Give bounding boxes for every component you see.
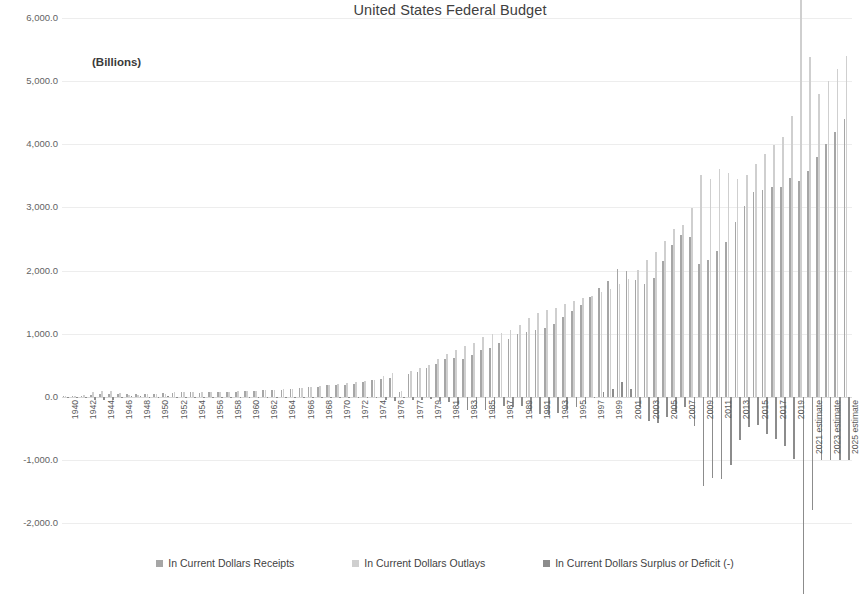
bar-outlays	[619, 284, 621, 397]
bar-surplus-deficit	[403, 397, 405, 398]
x-axis-tick-label: 1968	[324, 400, 334, 419]
bar-outlays	[655, 252, 657, 397]
x-axis-tick-label: 1999	[614, 400, 624, 419]
bar-outlays	[292, 389, 294, 396]
legend-item[interactable]: In Current Dollars Receipts	[156, 557, 294, 569]
x-axis-tick-label: 2021 estimate	[814, 400, 824, 454]
x-axis-tick-label: 2023 estimate	[832, 400, 842, 454]
x-axis-tick-label: 1970	[342, 400, 352, 419]
bar-outlays	[710, 179, 712, 397]
y-axis-tick-label: 1,000.0	[0, 328, 58, 339]
bar-outlays	[419, 368, 421, 397]
bar-outlays	[492, 334, 494, 397]
x-axis-tick-label: 1962	[269, 400, 279, 419]
bar-outlays	[310, 387, 312, 397]
bar-surplus-deficit	[185, 397, 187, 398]
bar-outlays	[764, 154, 766, 397]
bar-outlays	[446, 354, 448, 397]
bar-outlays	[837, 69, 839, 397]
bar-outlays	[664, 241, 666, 397]
bar-surplus-deficit	[603, 392, 605, 396]
x-axis-tick-label: 1987	[505, 400, 515, 419]
bar-outlays	[328, 385, 330, 397]
bar-surplus-deficit	[330, 397, 332, 398]
bar-outlays	[383, 376, 385, 397]
bar-outlays	[791, 116, 793, 397]
x-axis-tick-label: 2005	[669, 400, 679, 419]
bar-surplus-deficit	[367, 397, 369, 398]
y-axis-tick-label: 3,000.0	[0, 201, 58, 212]
y-axis-tick-label: -1,000.0	[0, 454, 58, 465]
x-axis-tick-label: 1952	[179, 400, 189, 419]
bar-surplus-deficit	[630, 389, 632, 397]
bar-outlays	[818, 94, 820, 397]
x-axis-tick-label: 1993	[560, 400, 570, 419]
bar-outlays	[800, 0, 802, 397]
bar-surplus-deficit	[76, 397, 78, 398]
bar-surplus-deficit	[249, 397, 251, 398]
legend-item[interactable]: In Current Dollars Outlays	[352, 557, 485, 569]
y-axis-tick-label: 4,000.0	[0, 138, 58, 149]
bar-outlays	[428, 365, 430, 397]
x-axis-tick-label: 1995	[578, 400, 588, 419]
x-axis-tick-label: 1966	[306, 400, 316, 419]
chart-title: United States Federal Budget	[0, 2, 860, 18]
bar-surplus-deficit	[158, 397, 160, 398]
bar-surplus-deficit	[176, 397, 178, 398]
bar-outlays	[700, 175, 702, 397]
bar-surplus-deficit	[258, 397, 260, 398]
x-axis-tick-label: 1974	[378, 400, 388, 419]
bar-outlays	[528, 318, 530, 397]
bar-surplus-deficit	[348, 397, 350, 398]
bar-outlays	[728, 173, 730, 396]
x-axis-tick-label: 2007	[687, 400, 697, 419]
legend-label: In Current Dollars Receipts	[168, 557, 294, 569]
bar-outlays	[437, 359, 439, 396]
x-axis-tick-label: 1977	[415, 400, 425, 419]
bar-outlays	[346, 383, 348, 396]
bar-outlays	[628, 279, 630, 397]
bar-outlays	[755, 164, 757, 397]
x-axis-tick-label: 1956	[215, 400, 225, 419]
bar-surplus-deficit	[312, 397, 314, 398]
y-axis-tick-label: 6,000.0	[0, 12, 58, 23]
bar-outlays	[782, 137, 784, 396]
x-axis-tick-label: 1976	[396, 400, 406, 419]
bar-outlays	[601, 292, 603, 396]
bar-outlays	[637, 270, 639, 397]
y-axis-tick-label: 5,000.0	[0, 75, 58, 86]
bar-outlays	[355, 382, 357, 397]
bar-surplus-deficit	[212, 397, 214, 398]
x-axis-tick-label: 1985	[487, 400, 497, 419]
x-axis-tick-label: 1997	[596, 400, 606, 419]
bar-outlays	[564, 304, 566, 396]
bar-outlays	[301, 388, 303, 396]
bar-outlays	[501, 333, 503, 396]
legend-item[interactable]: In Current Dollars Surplus or Deficit (-…	[543, 557, 734, 569]
x-axis-tick-label: 1940	[70, 400, 80, 419]
x-axis-tick-label: 2017	[778, 400, 788, 419]
bar-outlays	[473, 343, 475, 397]
bar-surplus-deficit	[358, 397, 360, 398]
bar-outlays	[274, 390, 276, 397]
bar-outlays	[846, 56, 848, 397]
bar-outlays	[828, 81, 830, 397]
bar-surplus-deficit	[221, 397, 223, 398]
bar-surplus-deficit	[140, 396, 142, 397]
bar-surplus-deficit	[339, 397, 341, 398]
x-axis-tick-label: 2011	[723, 400, 733, 418]
bar-outlays	[482, 337, 484, 397]
bar-surplus-deficit	[376, 397, 378, 398]
x-axis-tick-label: 1946	[124, 400, 134, 419]
bar-outlays	[610, 289, 612, 396]
bar-outlays	[537, 313, 539, 397]
x-axis-tick-label: 1983	[469, 400, 479, 419]
bar-outlays	[265, 390, 267, 397]
bar-surplus-deficit	[194, 397, 196, 398]
bar-surplus-deficit	[321, 397, 323, 399]
bar-surplus-deficit	[85, 397, 87, 398]
bar-surplus-deficit	[230, 397, 232, 398]
x-axis-tick-label: 1942	[88, 400, 98, 419]
x-axis-tick-label: 1948	[142, 400, 152, 419]
x-axis-tick-label: 2009	[705, 400, 715, 419]
